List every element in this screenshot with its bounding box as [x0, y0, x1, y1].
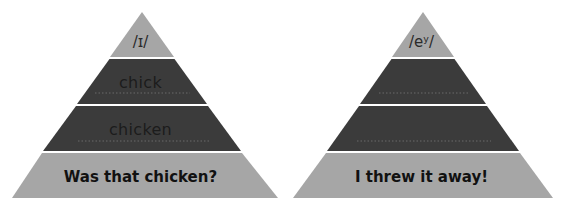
tier-4-label: I threw it away!	[281, 168, 562, 186]
pyramid-right: /eʸ/ I threw it away!	[281, 0, 562, 213]
tier-1-label: /ɪ/	[0, 33, 281, 51]
tier-3-label: chicken	[0, 120, 281, 139]
tier-2-label: chick	[0, 73, 281, 92]
tier-2-shape	[360, 59, 486, 104]
pyramid-left: /ɪ/ chick chicken Was that chicken?	[0, 0, 281, 213]
tier-4-label: Was that chicken?	[0, 168, 281, 186]
tier-1-label: /eʸ/	[281, 33, 562, 51]
tier-3-shape	[327, 106, 519, 151]
